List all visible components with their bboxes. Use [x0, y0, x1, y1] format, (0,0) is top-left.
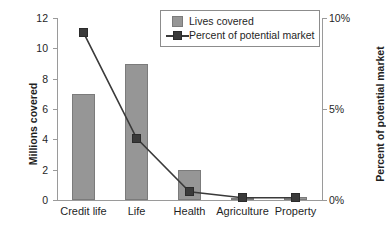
right-axis-tick-label: 5%: [329, 104, 377, 114]
left-axis-tick-label: 10: [0, 43, 48, 53]
right-axis-title: Percent of potential market: [374, 34, 386, 194]
right-axis-tick: [323, 109, 327, 110]
category-label: Credit life: [57, 205, 110, 218]
left-axis-tick-label: 2: [0, 165, 48, 175]
right-axis-tick: [323, 18, 327, 19]
left-axis-title: Millions covered: [27, 69, 39, 179]
left-axis-tick-label: 12: [0, 13, 48, 23]
line-marker-icon: [166, 30, 189, 41]
line-marker: [238, 193, 247, 202]
line-marker: [291, 193, 300, 202]
line-marker: [185, 187, 194, 196]
line-marker: [79, 28, 88, 37]
left-axis-tick-label: 8: [0, 74, 48, 84]
category-label: Agriculture: [216, 205, 269, 218]
legend-item-lives-covered: Lives covered: [166, 14, 314, 28]
right-axis-tick: [323, 200, 327, 201]
right-axis-tick-label: 0%: [329, 195, 377, 205]
chart-legend: Lives covered Percent of potential marke…: [160, 10, 320, 47]
line-marker: [132, 134, 141, 143]
legend-label-percent-of-potential-market: Percent of potential market: [189, 30, 314, 41]
legend-label-lives-covered: Lives covered: [189, 16, 254, 27]
legend-item-percent-of-potential-market: Percent of potential market: [166, 28, 314, 42]
category-label: Life: [110, 205, 163, 218]
bar-swatch-icon: [172, 16, 183, 27]
right-axis-tick-label: 10%: [329, 13, 377, 23]
category-label: Property: [269, 205, 322, 218]
category-label: Health: [163, 205, 216, 218]
left-axis-tick-label: 4: [0, 134, 48, 144]
left-axis-tick-label: 6: [0, 104, 48, 114]
left-axis-tick-label: 0: [0, 195, 48, 205]
